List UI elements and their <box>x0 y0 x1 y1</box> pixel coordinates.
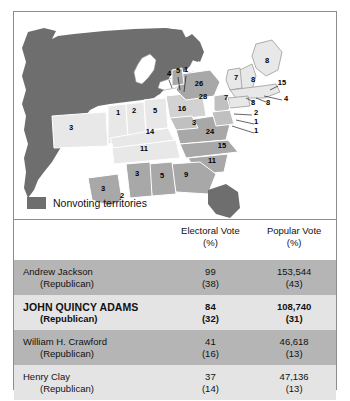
header-electoral-vote: Electoral Vote (%) <box>169 225 253 249</box>
candidate-party: (Republican) <box>23 313 169 325</box>
popular-vote-percent: (31) <box>252 313 336 325</box>
electoral-vote-label-lake-1: 1 <box>184 65 188 74</box>
table-row: JOHN QUINCY ADAMS(Republican)84(32)108,7… <box>14 295 336 330</box>
electoral-vote-label-virginia: 24 <box>206 127 215 136</box>
popular-vote-cell: 108,740(31) <box>252 301 336 325</box>
electoral-vote-label-massachusetts: 15 <box>278 78 286 87</box>
results-table: Electoral Vote (%) Popular Vote (%) Andr… <box>14 219 336 400</box>
electoral-vote-cell: 84(32) <box>169 301 253 325</box>
candidate-party: (Republican) <box>23 278 169 290</box>
electoral-vote-value: 37 <box>169 371 253 383</box>
electoral-vote-percent: (14) <box>169 383 253 395</box>
candidate-cell: William H. Crawford(Republican) <box>14 336 169 360</box>
popular-vote-cell: 153,544(43) <box>252 266 336 290</box>
popular-vote-value: 46,618 <box>252 336 336 348</box>
electoral-vote-label-maine: 8 <box>265 56 269 65</box>
candidate-party: (Republican) <box>23 383 169 395</box>
electoral-vote-percent: (16) <box>169 348 253 360</box>
popular-vote-value: 108,740 <box>252 301 336 313</box>
electoral-vote-value: 41 <box>169 336 253 348</box>
candidate-cell: Henry Clay(Republican) <box>14 371 169 395</box>
electoral-vote-label-vermont: 26 <box>195 79 203 88</box>
electoral-vote-label-ct-8b: 8 <box>266 98 270 107</box>
state-mississippi <box>126 162 152 198</box>
electoral-vote-label-rhode-island: 4 <box>284 94 289 103</box>
popular-vote-value: 153,544 <box>252 266 336 278</box>
state-connecticut <box>228 96 250 108</box>
election-figure: 3125161411243287151195332451267881548821… <box>13 11 337 390</box>
nonvoting-territories-label: Nonvoting territories <box>53 197 147 209</box>
electoral-vote-label-mississippi: 3 <box>135 169 139 178</box>
state-missouri <box>52 112 108 148</box>
table-row: William H. Crawford(Republican)41(16)46,… <box>14 330 336 365</box>
map-graphic: 3125161411243287151195332451267881548821… <box>14 12 336 219</box>
candidate-name: Henry Clay <box>23 371 169 383</box>
state-florida-territory <box>208 184 240 218</box>
table-row: Henry Clay(Republican)37(14)47,136(13) <box>14 365 336 400</box>
electoral-vote-percent: (38) <box>169 278 253 290</box>
candidate-name: JOHN QUINCY ADAMS <box>23 301 169 313</box>
electoral-vote-label-pennsylvania: 16 <box>178 104 186 113</box>
electoral-vote-label-tennessee: 11 <box>140 144 148 153</box>
popular-vote-cell: 46,618(13) <box>252 336 336 360</box>
nonvoting-territories-swatch <box>27 197 46 209</box>
electoral-vote-cell: 41(16) <box>169 336 253 360</box>
leader-line-dc <box>232 126 254 133</box>
candidate-party: (Republican) <box>23 348 169 360</box>
electoral-vote-label-new-hampshire: 7 <box>234 73 238 82</box>
table-row: Andrew Jackson(Republican)99(38)153,544(… <box>14 260 336 295</box>
electoral-vote-value: 99 <box>169 266 253 278</box>
candidate-name: Andrew Jackson <box>23 266 169 278</box>
electoral-vote-label-maryland-2: 2 <box>254 108 258 117</box>
electoral-vote-label-new-jersey: 7 <box>224 93 228 102</box>
electoral-vote-label-kentucky: 14 <box>146 127 155 136</box>
electoral-vote-label-ohio: 5 <box>153 106 157 115</box>
electoral-vote-label-south-carolina: 11 <box>208 156 216 165</box>
state-maryland-delaware <box>212 110 234 126</box>
popular-vote-value: 47,136 <box>252 371 336 383</box>
table-header-row: Electoral Vote (%) Popular Vote (%) <box>14 220 336 260</box>
electoral-map: 3125161411243287151195332451267881548821… <box>14 12 336 219</box>
header-popular-vote: Popular Vote (%) <box>252 225 336 249</box>
electoral-vote-label-indiana: 2 <box>132 106 136 115</box>
electoral-vote-label-connecticut-8: 8 <box>251 98 255 107</box>
candidate-cell: JOHN QUINCY ADAMS(Republican) <box>14 301 169 325</box>
electoral-vote-label-louisiana: 3 <box>101 184 105 193</box>
electoral-vote-label-alabama: 5 <box>160 171 164 180</box>
popular-vote-cell: 47,136(13) <box>252 371 336 395</box>
leader-line-maryland <box>234 114 252 115</box>
popular-vote-percent: (13) <box>252 383 336 395</box>
leader-line-ct2 <box>256 98 266 102</box>
electoral-vote-label-dc-1: 1 <box>254 126 258 135</box>
electoral-vote-label-vt-8: 8 <box>251 75 255 84</box>
electoral-vote-cell: 37(14) <box>169 371 253 395</box>
electoral-vote-label-georgia: 9 <box>184 170 188 179</box>
electoral-vote-percent: (32) <box>169 313 253 325</box>
leader-line-delaware <box>236 120 254 124</box>
electoral-vote-label-illinois: 1 <box>116 108 120 117</box>
electoral-vote-value: 84 <box>169 301 253 313</box>
map-legend: Nonvoting territories <box>27 197 147 209</box>
table-body: Andrew Jackson(Republican)99(38)153,544(… <box>14 260 336 400</box>
electoral-vote-cell: 99(38) <box>169 266 253 290</box>
electoral-vote-label-west-va: 3 <box>192 118 196 127</box>
candidate-name: William H. Crawford <box>23 336 169 348</box>
electoral-vote-label-missouri: 3 <box>69 123 73 132</box>
candidate-cell: Andrew Jackson(Republican) <box>14 266 169 290</box>
popular-vote-percent: (43) <box>252 278 336 290</box>
electoral-vote-label-lake-5: 5 <box>176 66 180 75</box>
popular-vote-percent: (13) <box>252 348 336 360</box>
electoral-vote-label-new-york: 28 <box>199 92 207 101</box>
electoral-vote-label-delaware-1: 1 <box>254 117 258 126</box>
electoral-vote-label-north-carolina: 15 <box>218 141 226 150</box>
